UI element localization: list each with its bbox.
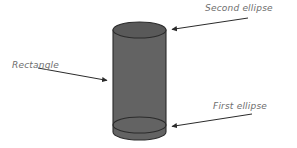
diagram-canvas: Second ellipse Rectangle First ellipse	[0, 0, 297, 148]
cylinder-body-rectangle	[113, 30, 166, 140]
arrow-second-ellipse	[172, 18, 248, 29]
label-rectangle: Rectangle	[12, 60, 59, 71]
cylinder-figure	[0, 0, 297, 148]
arrow-first-ellipse	[172, 114, 252, 126]
label-first-ellipse: First ellipse	[213, 101, 267, 112]
label-second-ellipse: Second ellipse	[205, 3, 273, 14]
cylinder-second-ellipse	[113, 22, 166, 38]
